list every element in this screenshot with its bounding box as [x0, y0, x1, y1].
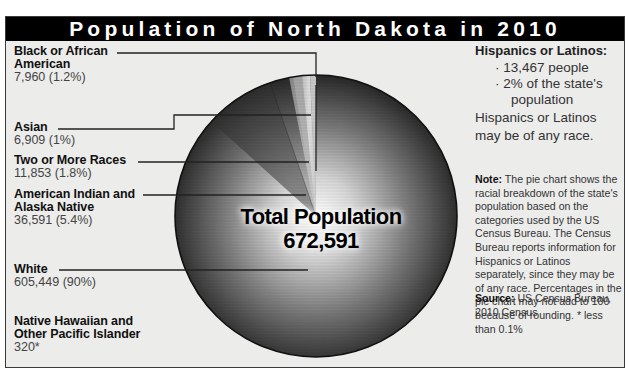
- label-american-indian: American Indian and Alaska Native 36,591…: [14, 188, 135, 227]
- label-asian: Asian 6,909 (1%): [14, 121, 75, 147]
- label-two-or-more-races: Two or More Races 11,853 (1.8%): [14, 154, 126, 180]
- label-black-african-american: Black or African American 7,960 (1.2%): [14, 45, 108, 84]
- source-text: Source: US Census Bureau, 2010 Census: [475, 292, 623, 319]
- total-population: Total Population 672,591: [226, 205, 416, 253]
- label-white: White 605,449 (90%): [14, 263, 96, 289]
- label-native-hawaiian: Native Hawaiian and Other Pacific Island…: [14, 315, 140, 354]
- infographic-frame: Population of North Dakota in 2010: [5, 16, 625, 368]
- hispanic-panel: Hispanics or Latinos: · 13,467 people · …: [475, 43, 625, 145]
